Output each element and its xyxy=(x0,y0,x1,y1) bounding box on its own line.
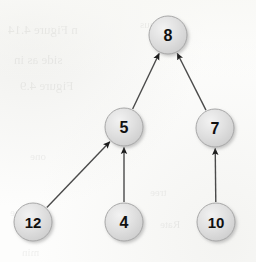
tree-node-8[interactable]: 8 xyxy=(149,16,187,54)
node-circle xyxy=(196,109,234,147)
tree-node-12[interactable]: 12 xyxy=(14,203,52,241)
tree-node-4[interactable]: 4 xyxy=(105,203,143,241)
tree-node-5[interactable]: 5 xyxy=(105,108,143,146)
node-circle xyxy=(149,16,187,54)
tree-edge-n10-to-n7 xyxy=(215,148,216,202)
tree-edge-n12-to-n5 xyxy=(47,142,110,208)
node-circle xyxy=(14,203,52,241)
tree-node-7[interactable]: 7 xyxy=(196,109,234,147)
tree-edge-n5-to-n8 xyxy=(133,53,160,108)
tree-edge-n7-to-n8 xyxy=(177,53,206,110)
tree-diagram: 85712410 xyxy=(0,0,256,262)
node-circle xyxy=(197,203,235,241)
tree-node-10[interactable]: 10 xyxy=(197,203,235,241)
figure-canvas: n Figure 4.14side as inFigure 4.9thusiso… xyxy=(0,0,256,262)
node-circle xyxy=(105,108,143,146)
node-circle xyxy=(105,203,143,241)
